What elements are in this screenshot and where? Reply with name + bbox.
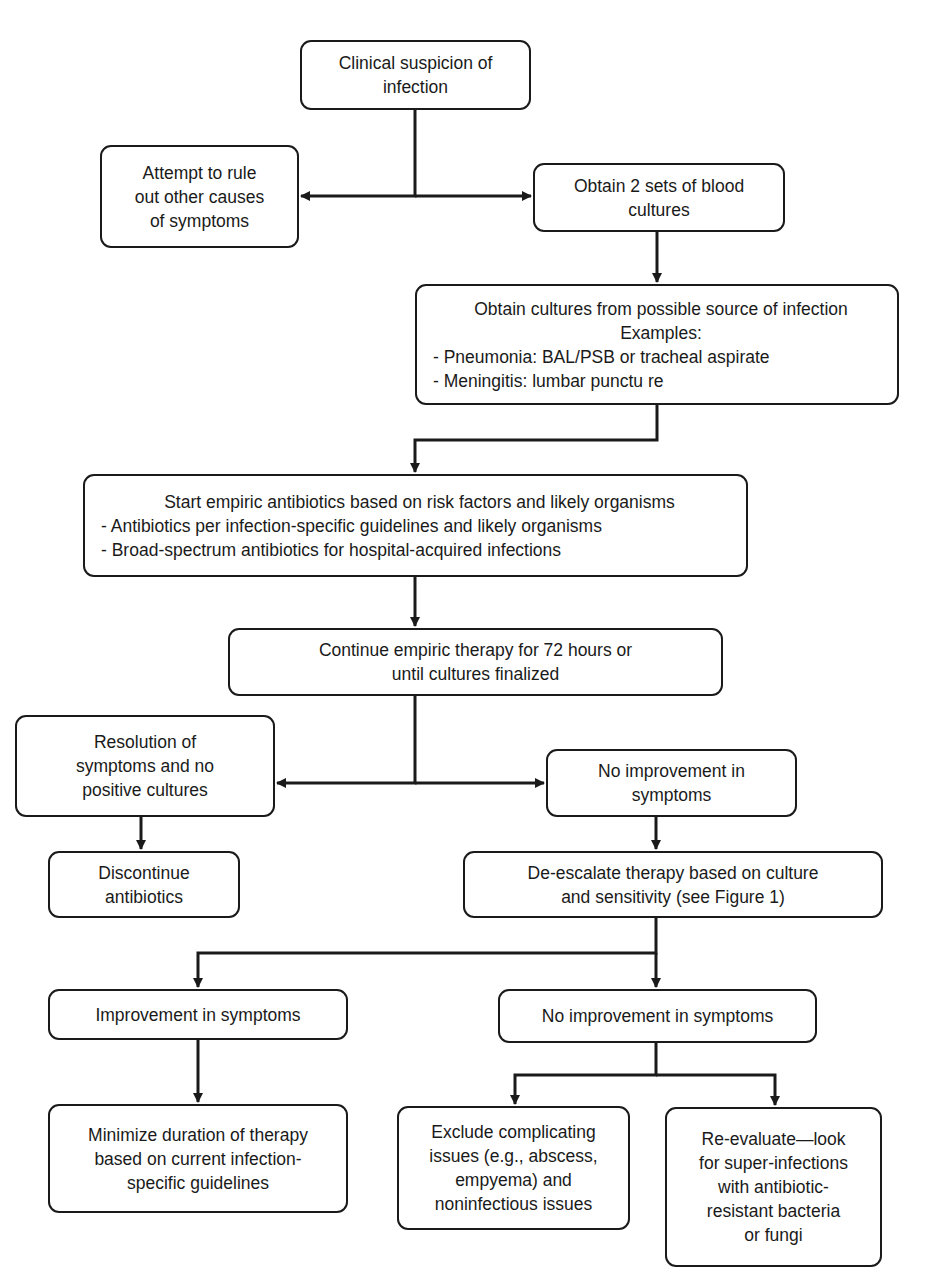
node-start-empiric-antibiotics: Start empiric antibiotics based on risk … (83, 474, 748, 577)
node-text: Start empiric antibiotics based on risk … (164, 490, 675, 514)
node-exclude-complicating-issues: Exclude complicating issues (e.g., absce… (397, 1106, 630, 1230)
node-text: until cultures finalized (392, 662, 559, 686)
node-bullet: - Antibiotics per infection-specific gui… (101, 514, 602, 538)
edge-continue-to-resolution (277, 696, 415, 783)
node-text: De-escalate therapy based on culture (528, 861, 819, 885)
node-text: noninfectious issues (435, 1192, 593, 1216)
node-text: antibiotics (105, 885, 183, 909)
node-discontinue-antibiotics: Discontinue antibiotics (48, 851, 240, 918)
flowchart: Clinical suspicion of infection Attempt … (0, 0, 935, 1285)
node-text: Clinical suspicion of (339, 51, 493, 75)
edge-de-escalate-to-improvement (198, 918, 656, 987)
node-improvement-in-symptoms: Improvement in symptoms (48, 989, 348, 1040)
node-text: empyema) and (455, 1168, 572, 1192)
node-text: Discontinue (98, 861, 189, 885)
node-text: for super-infections (699, 1151, 848, 1175)
node-text: No improvement in symptoms (542, 1004, 773, 1028)
node-text: Obtain cultures from possible source of … (474, 297, 848, 321)
node-minimize-duration: Minimize duration of therapy based on cu… (48, 1104, 348, 1213)
node-no-improvement-2: No improvement in symptoms (498, 989, 817, 1043)
node-text: cultures (628, 198, 689, 222)
node-clinical-suspicion: Clinical suspicion of infection (300, 40, 531, 110)
node-bullet: - Meningitis: lumbar punctu re (433, 369, 664, 393)
node-text: Examples: (620, 321, 702, 345)
node-text: or fungi (744, 1223, 802, 1247)
node-text: Attempt to rule (143, 161, 257, 185)
node-text: of symptoms (150, 209, 249, 233)
node-text: positive cultures (82, 778, 207, 802)
node-resolution-of-symptoms: Resolution of symptoms and no positive c… (15, 715, 275, 817)
edge-source-to-start-empiric (415, 405, 657, 472)
node-text: resistant bacteria (707, 1199, 840, 1223)
node-text: symptoms (632, 783, 712, 807)
node-text: and sensitivity (see Figure 1) (561, 885, 785, 909)
node-re-evaluate: Re-evaluate—look for super-infections wi… (665, 1107, 882, 1267)
edge-no-improvement-2-to-exclude (515, 1043, 656, 1104)
node-bullet: - Broad-spectrum antibiotics for hospita… (101, 538, 561, 562)
node-de-escalate-therapy: De-escalate therapy based on culture and… (463, 851, 883, 918)
node-text: out other causes (135, 185, 264, 209)
node-bullet: - Pneumonia: BAL/PSB or tracheal aspirat… (433, 345, 770, 369)
node-no-improvement-1: No improvement in symptoms (546, 749, 797, 817)
node-text: specific guidelines (127, 1171, 269, 1195)
edge-no-improvement-2-to-re-evaluate (656, 1075, 775, 1105)
node-source-cultures: Obtain cultures from possible source of … (415, 284, 899, 405)
node-text: Exclude complicating (431, 1120, 595, 1144)
node-text: Re-evaluate—look (702, 1127, 846, 1151)
node-text: infection (383, 75, 448, 99)
node-continue-empiric-therapy: Continue empiric therapy for 72 hours or… (228, 628, 723, 696)
node-rule-out-other-causes: Attempt to rule out other causes of symp… (100, 145, 299, 248)
node-text: with antibiotic- (718, 1175, 829, 1199)
node-text: No improvement in (598, 759, 745, 783)
node-text: Obtain 2 sets of blood (574, 174, 744, 198)
edge-clinical-to-rule-out (301, 110, 415, 196)
node-text: symptoms and no (76, 754, 214, 778)
node-text: issues (e.g., abscess, (429, 1144, 597, 1168)
node-blood-cultures: Obtain 2 sets of blood cultures (533, 163, 785, 232)
node-text: Continue empiric therapy for 72 hours or (319, 638, 632, 662)
node-text: Resolution of (94, 730, 196, 754)
node-text: Improvement in symptoms (95, 1003, 300, 1027)
node-text: Minimize duration of therapy (88, 1123, 308, 1147)
node-text: based on current infection- (94, 1147, 301, 1171)
